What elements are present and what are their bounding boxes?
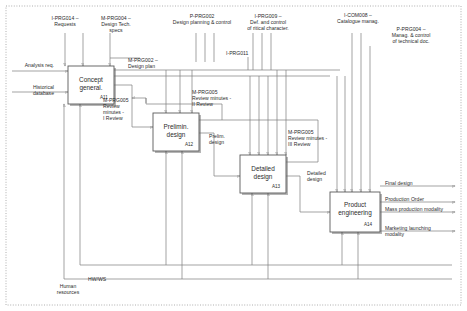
output-final-design-label: Final design xyxy=(385,180,463,186)
activity-label-A11: Concept general. xyxy=(68,76,114,91)
control-prg011-label: I-PRG011 xyxy=(226,50,262,56)
output-production-order-label: Production Order xyxy=(385,196,463,202)
control-critical-character-label: I-PRG009 – Def. and control of ritical c… xyxy=(234,13,302,31)
control-requests-label: I-PRG014 – Requests xyxy=(42,15,88,27)
control-design-tech-specs-label: M-PRG004 – Design Tech. specs xyxy=(91,15,141,33)
activity-id-A14: A14 xyxy=(364,222,372,227)
mechanism-human-resources-label: Human resources xyxy=(46,283,90,295)
control-technical-doc-label: P-PRG004 – Manag. & control of technical… xyxy=(380,26,442,44)
output-marketing-launching-label: Marketing launching modality xyxy=(385,225,463,237)
control-catalogue-manag-label: I-COM008 – Catalogue manag. xyxy=(330,12,386,24)
flow-prelim-design-label: Prelim. design xyxy=(209,133,239,145)
input-analysis-req-label: Analysis req. xyxy=(10,62,54,68)
flow-design-plan-label: M-PRG002 – Design plan xyxy=(128,57,184,69)
activity-label-A13: Detailed design xyxy=(240,165,286,180)
input-historical-database-label: Historical database xyxy=(10,84,54,96)
activity-id-A12: A12 xyxy=(185,142,193,147)
diagram-vector-layer xyxy=(0,0,467,311)
flow-review-minutes-i-label: M-PRG005 Review minutes - I Review xyxy=(103,97,143,121)
flow-review-minutes-ii-label: M-PRG005 Review minutes - II Review xyxy=(192,89,254,107)
idef0-diagram-canvas: Concept general. A11 Prelimin. design A1… xyxy=(0,0,467,311)
flow-detailed-design-label: Detailed design xyxy=(307,170,339,182)
activity-id-A13: A13 xyxy=(272,184,280,189)
activity-label-A14: Product engineering xyxy=(330,201,380,216)
output-mass-production-label: Mass production modality xyxy=(385,206,465,212)
mechanism-hw-ws-label: HW/WS xyxy=(88,276,120,282)
activity-label-A12: Prelimin. design xyxy=(153,123,199,138)
flow-review-minutes-iii-label: M-PRG005 Review minutes - III Review xyxy=(288,129,350,147)
